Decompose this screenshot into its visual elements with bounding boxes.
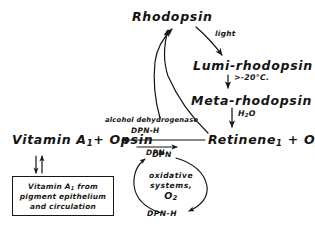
label-light: light (215, 30, 236, 38)
source-box-line-3: and circulation (13, 202, 113, 211)
node-retinene-pre: Retinene (208, 132, 276, 147)
node-meta-rhodopsin: Meta-rhodopsin (191, 94, 312, 107)
source-box-line-1-pre: Vitamin A (28, 182, 71, 191)
source-box-line-1-post: from (74, 182, 97, 191)
node-retinene-post: + Opsin (283, 132, 315, 147)
node-lumi-rhodopsin: Lumi-rhodopsin (193, 59, 313, 72)
label-cycle-o2-pre: O (164, 190, 173, 201)
label-water: H2O (238, 110, 256, 119)
label-cycle-oxidative: oxidative (137, 172, 205, 180)
label-cycle-dpn: DPN (144, 151, 180, 159)
label-cycle-systems: systems, (137, 182, 205, 190)
node-retinene-sub: 1 (276, 138, 283, 148)
label-cycle-o2: O2 (137, 191, 205, 202)
label-water-pre: H (238, 109, 245, 118)
label-water-post: O (249, 109, 256, 118)
source-box: Vitamin A1 from pigment epithelium and c… (12, 176, 114, 216)
rhodopsin-cycle-diagram: Rhodopsin light Lumi-rhodopsin >-20°C. M… (0, 0, 315, 235)
arrow-regeneration-inner (154, 29, 172, 118)
node-vitamin-a-post: + Opsin (93, 132, 153, 147)
label-enzyme: alcohol dehydrogenase (105, 117, 198, 124)
label-cycle-o2-sub: 2 (173, 194, 178, 202)
label-temperature: >-20°C. (234, 74, 269, 82)
node-meta-rhodopsin-text: Meta-rhodopsin (191, 93, 312, 108)
node-retinene-opsin: Retinene1 + Opsin (208, 133, 315, 148)
node-vitamin-a-pre: Vitamin A (12, 132, 87, 147)
source-box-line-2: pigment epithelium (13, 192, 113, 201)
node-rhodopsin: Rhodopsin (132, 10, 213, 23)
label-cycle-dpnh: DPN-H (137, 210, 187, 218)
node-vitamin-a-opsin: Vitamin A1+ Opsin (12, 133, 153, 148)
source-box-line-1: Vitamin A1 from (13, 182, 113, 191)
